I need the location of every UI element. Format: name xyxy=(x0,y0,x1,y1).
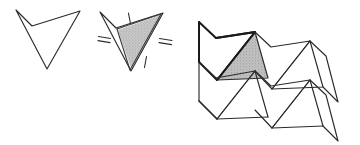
figure-background xyxy=(0,0,360,145)
figure-root xyxy=(0,0,360,145)
dart-tessellation-figure xyxy=(0,0,360,145)
